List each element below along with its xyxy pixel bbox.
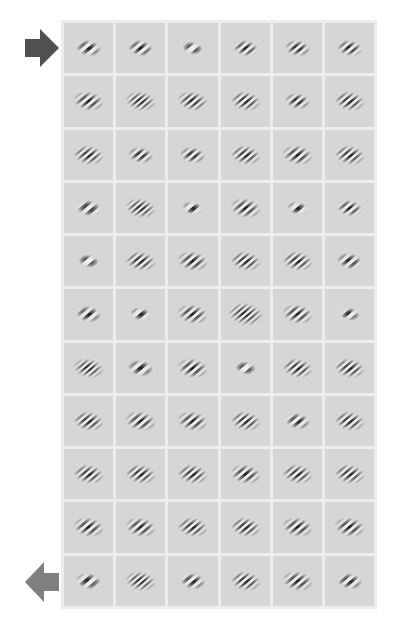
filter-patch xyxy=(325,76,374,126)
filter-patch xyxy=(64,23,113,73)
filter-patch xyxy=(221,396,270,446)
filter-patch xyxy=(325,449,374,499)
filter-patch xyxy=(168,343,217,393)
filter-patch xyxy=(168,449,217,499)
filter-patch xyxy=(273,396,322,446)
filter-patch xyxy=(64,76,113,126)
filter-grid xyxy=(61,20,377,609)
filter-patch xyxy=(168,130,217,180)
arrow-left-icon xyxy=(25,562,59,602)
filter-patch xyxy=(273,289,322,339)
arrow-right-icon xyxy=(25,29,59,67)
filter-patch xyxy=(273,449,322,499)
filter-patch xyxy=(221,236,270,286)
filter-patch xyxy=(325,183,374,233)
filter-patch xyxy=(64,183,113,233)
filter-patch xyxy=(273,130,322,180)
filter-patch xyxy=(273,76,322,126)
filter-patch xyxy=(273,556,322,606)
filter-patch xyxy=(116,556,165,606)
filter-patch xyxy=(325,236,374,286)
filter-patch xyxy=(116,289,165,339)
filter-patch xyxy=(273,183,322,233)
filter-patch xyxy=(221,183,270,233)
filter-patch xyxy=(273,343,322,393)
filter-patch xyxy=(168,556,217,606)
filter-patch xyxy=(325,556,374,606)
filter-patch xyxy=(168,396,217,446)
filter-patch xyxy=(168,23,217,73)
filter-patch xyxy=(325,289,374,339)
filter-patch xyxy=(273,23,322,73)
filter-patch xyxy=(221,76,270,126)
filter-patch xyxy=(116,23,165,73)
filter-patch xyxy=(116,449,165,499)
filter-patch xyxy=(116,343,165,393)
filter-patch xyxy=(64,449,113,499)
filter-patch xyxy=(221,343,270,393)
filter-patch xyxy=(273,502,322,552)
filter-patch xyxy=(64,556,113,606)
filter-patch xyxy=(221,449,270,499)
filter-patch xyxy=(168,76,217,126)
filter-patch xyxy=(221,23,270,73)
filter-patch xyxy=(64,130,113,180)
filter-patch xyxy=(325,130,374,180)
filter-patch xyxy=(64,396,113,446)
filter-patch xyxy=(64,236,113,286)
filter-patch xyxy=(116,236,165,286)
filter-patch xyxy=(64,502,113,552)
filter-patch xyxy=(325,396,374,446)
filter-patch xyxy=(325,23,374,73)
filter-patch xyxy=(221,130,270,180)
filter-patch xyxy=(116,502,165,552)
filter-patch xyxy=(221,556,270,606)
filter-patch xyxy=(116,76,165,126)
filter-patch xyxy=(168,502,217,552)
filter-patch xyxy=(325,343,374,393)
filter-patch xyxy=(325,502,374,552)
filter-patch xyxy=(64,289,113,339)
filter-patch xyxy=(168,289,217,339)
filter-patch xyxy=(116,130,165,180)
filter-patch xyxy=(221,502,270,552)
filter-patch xyxy=(64,343,113,393)
filter-patch xyxy=(168,183,217,233)
filter-patch xyxy=(116,396,165,446)
filter-patch xyxy=(273,236,322,286)
filter-patch xyxy=(168,236,217,286)
filter-patch xyxy=(116,183,165,233)
filter-patch xyxy=(221,289,270,339)
